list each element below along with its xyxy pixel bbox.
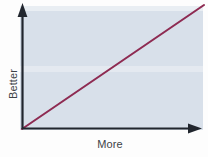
chart-drawing-layer — [0, 0, 208, 157]
chart-screenshot: Better More — [0, 0, 208, 157]
arrow-right-icon — [188, 124, 202, 134]
diagonal-trend-line — [22, 5, 204, 129]
y-axis-label: Better — [7, 62, 19, 106]
x-axis-label: More — [80, 138, 140, 150]
arrow-up-icon — [18, 3, 28, 17]
